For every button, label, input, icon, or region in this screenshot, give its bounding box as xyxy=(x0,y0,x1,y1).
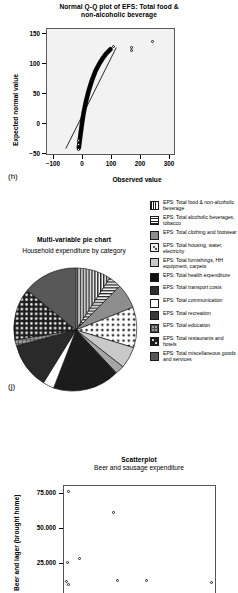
legend-swatch-horizontal-stripes xyxy=(150,216,159,225)
qq-point-outlier xyxy=(151,40,154,43)
legend-item: EPS: Total clothing and footwear xyxy=(150,230,238,240)
scatter-y-tick xyxy=(59,528,63,529)
legend-label: EPS: Total health expenditure xyxy=(163,273,230,279)
legend-item: EPS: Total alcoholic beverages, tobacco xyxy=(150,215,238,227)
scatter-point xyxy=(145,579,148,582)
legend-label: EPS: Total restaurants and hotels xyxy=(163,336,238,348)
qq-y-tick-label: 100 xyxy=(10,60,40,67)
legend-item: EPS: Total food & non-alcoholic beverage xyxy=(150,200,238,212)
scatter-y-tick-label: 75.000 xyxy=(16,489,56,496)
scatterplot-panel: Scatterplot Beer and sausage expenditure… xyxy=(0,448,238,593)
pie-chart-panel: Multi-variable pie chart Household expen… xyxy=(0,196,238,411)
legend-label: EPS: Total education xyxy=(163,323,210,329)
qq-point-outlier xyxy=(77,148,80,151)
qq-y-tick-label: 0 xyxy=(10,120,40,127)
qq-title-line1: Normal Q-Q plot of EFS: Total food & xyxy=(0,3,238,11)
legend-item: EPS: Total restaurants and hotels xyxy=(150,336,238,348)
scatter-plot-area xyxy=(63,485,216,593)
qq-y-axis-label: Expected normal value xyxy=(12,74,19,146)
pie-subfigure-label: (j) xyxy=(8,382,15,391)
qq-y-tick xyxy=(42,63,46,64)
qq-y-tick xyxy=(42,123,46,124)
scatter-point xyxy=(67,490,70,493)
scatter-y-tick xyxy=(59,563,63,564)
qq-x-axis-label: Observed value xyxy=(0,176,238,183)
legend-label: EPS: Total clothing and footwear xyxy=(163,230,237,236)
qq-x-tick xyxy=(111,155,112,159)
legend-item: EPS: Total communication xyxy=(150,298,238,308)
scatter-y-axis-label: Beer and lager (brought home) xyxy=(13,495,20,591)
qq-point-outlier xyxy=(130,49,133,52)
legend-label: EPS: Total transport costs xyxy=(163,285,222,291)
legend-swatch-mid-gray-grid xyxy=(150,324,159,333)
qq-x-tick-label: 300 xyxy=(154,160,184,167)
qq-x-tick-label: −100 xyxy=(38,160,68,167)
legend-label: EPS: Total recreation xyxy=(163,311,211,317)
legend-item: EPS: Total health expenditure xyxy=(150,273,238,283)
qq-y-tick-label: −50 xyxy=(10,150,40,157)
qq-y-tick xyxy=(42,93,46,94)
qq-x-tick xyxy=(53,155,54,159)
legend-item: EPS: Total education xyxy=(150,323,238,333)
legend-swatch-black-dots xyxy=(150,337,159,346)
qq-subfigure-label: (h) xyxy=(8,172,18,181)
pie-svg xyxy=(10,264,142,396)
qq-title-line2: non-alcoholic beverage xyxy=(0,11,238,19)
legend-label: EPS: Total furnishings, HH equipment, ca… xyxy=(163,258,238,270)
legend-swatch-solid-gray xyxy=(150,231,159,240)
legend-item: EPS: Total furnishings, HH equipment, ca… xyxy=(150,258,238,270)
legend-swatch-dark-gray xyxy=(150,286,159,295)
legend-item: EPS: Total housing, water, electricity xyxy=(150,243,238,255)
legend-item: EPS: Total transport costs xyxy=(150,285,238,295)
pie-legend: EPS: Total food & non-alcoholic beverage… xyxy=(150,200,238,366)
scatter-point xyxy=(67,583,70,586)
pie-subtitle: Household expenditure by category xyxy=(4,247,144,256)
qq-x-tick-label: 0 xyxy=(67,160,97,167)
scatter-point xyxy=(112,511,115,514)
qq-title-block: Normal Q-Q plot of EFS: Total food & non… xyxy=(0,0,238,19)
scatter-point xyxy=(66,561,69,564)
legend-item: EPS: Total recreation xyxy=(150,311,238,321)
qq-x-tick-label: 200 xyxy=(125,160,155,167)
scatter-y-tick-label: 25.000 xyxy=(16,559,56,566)
legend-label: EPS: Total communication xyxy=(163,298,222,304)
scatter-y-tick-label: 50.000 xyxy=(16,524,56,531)
legend-label: EPS: Total housing, water, electricity xyxy=(163,243,238,255)
legend-swatch-dark-texture xyxy=(150,311,159,320)
scatter-point xyxy=(78,557,81,560)
qq-x-tick xyxy=(140,155,141,159)
legend-swatch-white xyxy=(150,299,159,308)
legend-item: EPS: Total miscellaneous goods and servi… xyxy=(150,351,238,363)
qq-y-tick-label: 50 xyxy=(10,90,40,97)
legend-label: EPS: Total alcoholic beverages, tobacco xyxy=(163,215,238,227)
qq-y-tick xyxy=(42,153,46,154)
qq-plot-panel: Normal Q-Q plot of EFS: Total food & non… xyxy=(0,0,238,196)
scatter-y-tick xyxy=(59,493,63,494)
legend-swatch-vertical-stripes xyxy=(150,201,159,210)
pie-graphic xyxy=(10,264,142,396)
qq-y-tick xyxy=(42,33,46,34)
qq-point-outlier xyxy=(112,45,115,48)
qq-x-tick xyxy=(169,155,170,159)
qq-x-tick xyxy=(82,155,83,159)
legend-swatch-light-gray xyxy=(150,258,159,267)
legend-swatch-solid-black xyxy=(150,273,159,282)
scatter-point xyxy=(210,581,213,584)
scatter-point xyxy=(116,579,119,582)
scatter-title: Scatterplot xyxy=(0,448,238,464)
qq-plot-svg xyxy=(47,29,174,154)
scatter-subtitle: Beer and sausage expenditure xyxy=(0,464,238,473)
legend-label: EPS: Total food & non-alcoholic beverage xyxy=(163,200,238,212)
qq-y-tick-label: 150 xyxy=(10,30,40,37)
legend-swatch-gray-solid xyxy=(150,352,159,361)
legend-label: EPS: Total miscellaneous goods and servi… xyxy=(163,351,238,363)
qq-plot-area xyxy=(46,28,175,155)
legend-swatch-dots-light xyxy=(150,243,159,252)
pie-title: Multi-variable pie chart xyxy=(6,236,142,244)
qq-x-tick-label: 100 xyxy=(96,160,126,167)
